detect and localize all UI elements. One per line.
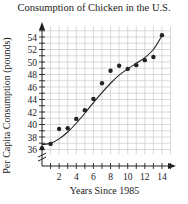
y-tick-label: 48 xyxy=(28,70,38,80)
data-point xyxy=(74,117,78,121)
data-point xyxy=(100,81,104,85)
y-tick-label: 38 xyxy=(28,133,38,143)
y-tick-label: 44 xyxy=(28,95,38,105)
x-axis-arrow-icon xyxy=(168,163,176,169)
y-axis-arrow-icon xyxy=(39,22,45,30)
y-tick-label: 40 xyxy=(28,120,38,130)
data-point xyxy=(151,55,155,59)
data-point xyxy=(126,67,130,71)
x-tick-label: 14 xyxy=(157,172,167,182)
y-tick-label: 46 xyxy=(28,83,38,93)
y-tick-label: 42 xyxy=(28,108,38,118)
x-tick-label: 4 xyxy=(74,172,79,182)
data-point xyxy=(66,126,70,130)
x-tick-label: 10 xyxy=(123,172,133,182)
data-point xyxy=(108,69,112,73)
y-tick-label: 54 xyxy=(28,33,38,43)
data-point xyxy=(117,64,121,68)
data-point xyxy=(57,127,61,131)
y-tick-label: 52 xyxy=(28,45,38,55)
data-point xyxy=(134,63,138,67)
y-tick-label: 50 xyxy=(28,58,38,68)
y-tick-label: 36 xyxy=(28,145,38,155)
plot-area: 246810121436384042444648505254 xyxy=(0,0,188,204)
data-point xyxy=(143,58,147,62)
data-point xyxy=(160,33,164,37)
data-point xyxy=(48,142,52,146)
data-point xyxy=(91,97,95,101)
axes xyxy=(38,22,176,169)
data-point xyxy=(83,108,87,112)
x-tick-label: 12 xyxy=(140,172,150,182)
data-point xyxy=(40,146,44,150)
x-tick-label: 8 xyxy=(108,172,113,182)
x-tick-label: 6 xyxy=(91,172,96,182)
x-tick-label: 2 xyxy=(57,172,62,182)
grid-lines xyxy=(42,26,171,155)
